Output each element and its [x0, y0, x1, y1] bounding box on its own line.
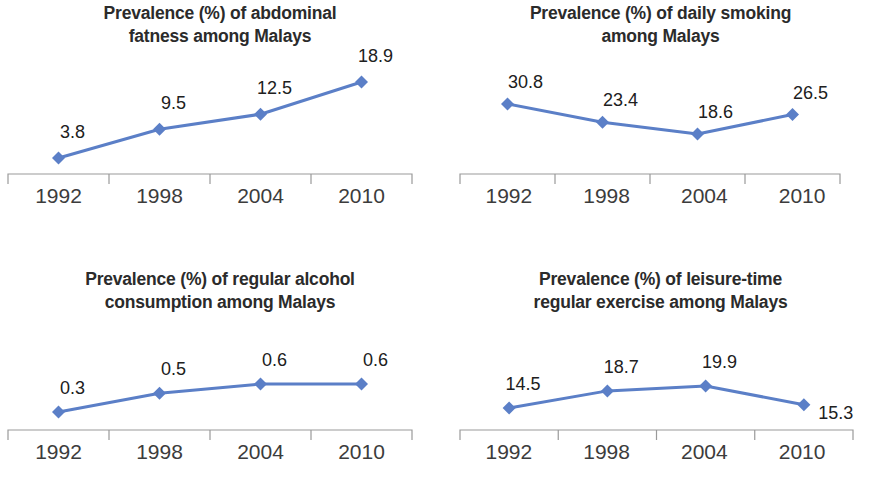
data-point-label: 12.5	[257, 78, 292, 99]
x-tick-label: 2010	[311, 184, 412, 208]
x-tick-label: 1992	[8, 440, 109, 464]
data-point-label: 14.5	[506, 374, 541, 395]
data-point-label: 18.7	[604, 356, 639, 377]
data-point-marker	[501, 98, 514, 111]
data-point-marker	[797, 398, 810, 411]
x-axis-tick-labels: 1992 1998 2004 2010	[460, 184, 851, 208]
x-axis	[8, 430, 412, 440]
x-tick-label: 1998	[109, 184, 210, 208]
data-point-label: 30.8	[508, 72, 543, 93]
chart-panel-daily-smoking: Prevalence (%) of daily smokingamong Mal…	[440, 0, 881, 240]
series-line	[59, 82, 362, 158]
data-point-label: 0.6	[262, 350, 287, 371]
x-axis	[460, 174, 840, 184]
data-point-marker	[52, 406, 65, 419]
chart-grid: Prevalence (%) of abdominalfatness among…	[0, 0, 881, 482]
data-point-label: 3.8	[60, 122, 85, 143]
x-axis-tick-labels: 1992 1998 2004 2010	[8, 184, 412, 208]
data-point-label: 26.5	[793, 82, 828, 103]
data-point-label: 23.4	[603, 90, 638, 111]
data-point-marker	[691, 128, 704, 141]
x-tick-label: 1992	[460, 440, 558, 464]
x-tick-label: 1992	[460, 184, 558, 208]
x-tick-label: 2004	[656, 440, 754, 464]
data-point-marker	[786, 108, 799, 121]
data-point-label: 19.9	[702, 352, 737, 373]
data-point-marker	[699, 380, 712, 393]
series-line	[59, 384, 362, 412]
x-tick-label: 2004	[210, 440, 311, 464]
series-line	[509, 386, 804, 408]
x-tick-label: 1998	[109, 440, 210, 464]
data-point-marker	[52, 152, 65, 165]
data-point-marker	[153, 123, 166, 136]
data-point-label: 0.3	[60, 378, 85, 399]
data-point-label: 18.6	[698, 102, 733, 123]
x-axis	[8, 174, 412, 184]
data-point-marker	[355, 378, 368, 391]
data-point-label: 0.6	[363, 350, 388, 371]
x-axis-tick-labels: 1992 1998 2004 2010	[460, 440, 851, 464]
x-tick-label: 2004	[656, 184, 754, 208]
x-axis	[460, 430, 853, 440]
data-point-marker	[503, 402, 516, 415]
data-point-marker	[596, 116, 609, 129]
data-point-marker	[153, 387, 166, 400]
data-point-marker	[601, 384, 614, 397]
x-tick-label: 2010	[753, 440, 851, 464]
x-tick-label: 1998	[558, 184, 656, 208]
x-tick-label: 2010	[311, 440, 412, 464]
data-point-label: 0.5	[161, 359, 186, 380]
chart-panel-leisure-exercise: Prevalence (%) of leisure-timeregular ex…	[440, 240, 881, 482]
x-tick-label: 2004	[210, 184, 311, 208]
data-point-label: 9.5	[161, 93, 186, 114]
x-tick-label: 1998	[558, 440, 656, 464]
x-axis-tick-labels: 1992 1998 2004 2010	[8, 440, 412, 464]
chart-panel-alcohol-consumption: Prevalence (%) of regular alcoholconsump…	[0, 240, 440, 482]
data-point-label: 18.9	[358, 46, 393, 67]
data-point-label: 15.3	[818, 402, 853, 423]
series-line	[508, 104, 793, 134]
x-tick-label: 2010	[753, 184, 851, 208]
chart-panel-abdominal-fatness: Prevalence (%) of abdominalfatness among…	[0, 0, 440, 240]
data-point-marker	[355, 76, 368, 89]
x-tick-label: 1992	[8, 184, 109, 208]
data-point-marker	[254, 108, 267, 121]
data-point-marker	[254, 378, 267, 391]
